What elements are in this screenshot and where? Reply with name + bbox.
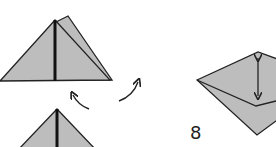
step-number: 8 [190,124,201,142]
curved-arrow-right-icon [119,82,138,101]
bottom-triangle [18,109,96,147]
top-folded-triangle [0,16,112,81]
curved-arrow-left-icon [73,95,89,109]
diamond-back [197,52,276,135]
diamond-fold [197,52,276,135]
origami-diagram [0,0,276,147]
